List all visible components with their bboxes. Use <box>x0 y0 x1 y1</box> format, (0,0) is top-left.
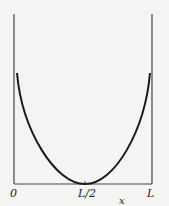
tick-label-zero: 0 <box>10 188 17 199</box>
x-axis-label: x <box>119 196 125 206</box>
potential-curve <box>17 73 150 184</box>
diagram-canvas <box>0 0 169 206</box>
tick-label-l: L <box>147 188 154 199</box>
tick-label-half: L/2 <box>78 188 96 199</box>
